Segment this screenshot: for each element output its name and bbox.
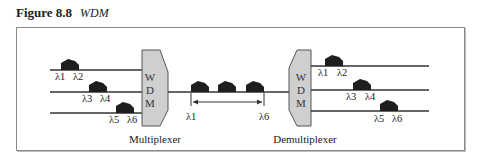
pulse-icon (246, 81, 264, 92)
wavelength-label: λ1 (318, 67, 328, 78)
wavelength-label: λ6 (127, 114, 137, 125)
wavelength-label: λ5 (109, 114, 119, 125)
combined-link: λ1 λ6 (168, 81, 289, 122)
pulse-icon (380, 100, 398, 111)
mux-letter: W (145, 71, 156, 83)
input-labels: λ1 λ2 λ3 λ4 λ5 λ6 (55, 71, 137, 125)
wavelength-label: λ5 (374, 113, 384, 124)
pulse-icon (325, 55, 343, 66)
wavelength-label: λ3 (346, 91, 356, 102)
output-labels: λ1 λ2 λ3 λ4 λ5 λ6 (318, 67, 402, 124)
multiplexer: W D M Multiplexer (129, 50, 181, 145)
arrowhead-right-icon (257, 100, 262, 105)
output-pulses (325, 55, 398, 111)
pulse-icon (61, 59, 79, 70)
arrowhead-left-icon (193, 100, 198, 105)
mux-letter: D (146, 84, 154, 96)
demux-letter: D (297, 84, 305, 96)
demux-letter: W (296, 71, 307, 83)
demultiplexer-label: Demultiplexer (273, 133, 337, 145)
demux-letter: M (296, 97, 306, 109)
wavelength-label: λ6 (392, 113, 402, 124)
multiplexer-label: Multiplexer (129, 133, 181, 145)
wavelength-label: λ4 (365, 91, 376, 102)
range-start-label: λ1 (186, 111, 196, 122)
pulse-icon (353, 79, 371, 90)
input-pulses (61, 59, 134, 113)
wavelength-label: λ2 (337, 67, 347, 78)
wdm-diagram: λ1 λ2 λ3 λ4 λ5 λ6 W D M Multiplexer λ1 λ… (0, 0, 477, 165)
wavelength-label: λ2 (73, 71, 83, 82)
mux-letter: M (145, 97, 155, 109)
pulse-icon (116, 102, 134, 113)
wavelength-label: λ3 (82, 93, 92, 104)
wavelength-label: λ1 (55, 71, 65, 82)
range-end-label: λ6 (259, 111, 269, 122)
pulse-icon (89, 81, 107, 92)
pulse-icon (218, 81, 236, 92)
pulse-icon (191, 81, 209, 92)
wavelength-label: λ4 (100, 93, 111, 104)
